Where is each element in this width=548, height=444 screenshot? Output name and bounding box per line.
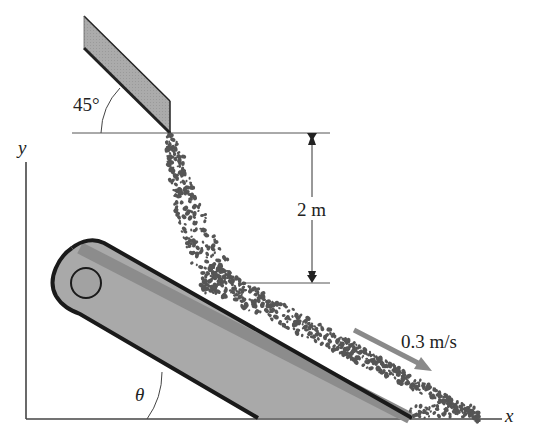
belt-angle-arc xyxy=(147,372,162,419)
belt-pulley xyxy=(71,268,101,298)
diagram-canvas: 45° 2 m 0.3 m/s θ x y xyxy=(0,0,548,444)
conveyor-belt xyxy=(51,240,412,418)
chute-angle-arc xyxy=(101,88,120,133)
chute-angle-label: 45° xyxy=(73,95,100,114)
y-axis-label: y xyxy=(18,138,26,157)
chute xyxy=(84,16,170,133)
x-axis-label: x xyxy=(505,406,513,425)
belt-speed-label: 0.3 m/s xyxy=(401,332,457,351)
drop-height-label: 2 m xyxy=(297,200,326,219)
belt-angle-label: θ xyxy=(135,385,144,404)
